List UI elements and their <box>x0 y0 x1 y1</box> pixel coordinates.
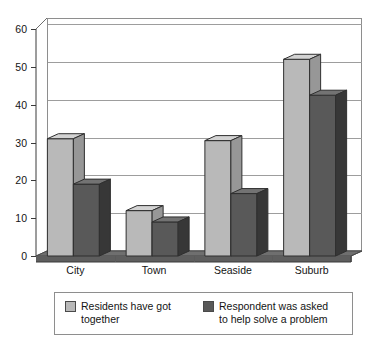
gridline-20 <box>48 175 362 176</box>
y-tick-label-0: 0 <box>0 251 27 261</box>
y-tick-label-30: 30 <box>0 138 27 148</box>
y-tick-mark-60 <box>31 29 36 30</box>
y-tick-mark-40 <box>31 105 36 106</box>
x-axis-label-town: Town <box>115 264 194 276</box>
legend-swatch-residents <box>65 301 76 312</box>
x-tick-mark-3 <box>272 256 273 262</box>
x-axis-label-seaside: Seaside <box>194 264 273 276</box>
legend-item-respondent: Respondent was asked to help solve a pro… <box>203 300 328 325</box>
y-tick-mark-20 <box>31 180 36 181</box>
gridline-50 <box>48 62 362 63</box>
x-axis-label-city: City <box>36 264 115 276</box>
y-tick-label-20: 20 <box>0 175 27 185</box>
x-tick-mark-4 <box>351 256 352 262</box>
gridline-60 <box>48 24 362 25</box>
y-tick-label-40: 40 <box>0 100 27 110</box>
y-tick-label-60: 60 <box>0 24 27 34</box>
x-axis-label-suburb: Suburb <box>272 264 351 276</box>
y-tick-label-10: 10 <box>0 213 27 223</box>
y-tick-mark-10 <box>31 218 36 219</box>
gridline-30 <box>48 138 362 139</box>
y-tick-mark-0 <box>31 256 36 257</box>
y-tick-mark-50 <box>31 67 36 68</box>
legend: Residents have got together Respondent w… <box>54 292 353 335</box>
x-tick-mark-2 <box>194 256 195 262</box>
y-tick-label-50: 50 <box>0 62 27 72</box>
legend-swatch-respondent <box>203 301 214 312</box>
legend-label-residents: Residents have got together <box>81 300 171 325</box>
bar-chart: 6050403020100 CityTownSeasideSuburb Resi… <box>0 0 385 345</box>
legend-label-respondent: Respondent was asked to help solve a pro… <box>219 300 328 325</box>
plot-area <box>47 18 362 251</box>
gridline-40 <box>48 100 362 101</box>
gridline-10 <box>48 213 362 214</box>
x-tick-mark-1 <box>115 256 116 262</box>
y-tick-mark-30 <box>31 143 36 144</box>
legend-item-residents: Residents have got together <box>65 300 171 325</box>
